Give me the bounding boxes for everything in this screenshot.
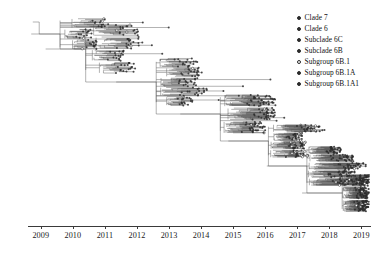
- tree-tip: [186, 97, 188, 99]
- tree-tip: [261, 99, 263, 101]
- tree-tip: [318, 126, 320, 128]
- tree-tip: [285, 156, 287, 158]
- tree-tip: [342, 154, 344, 156]
- tree-tip: [347, 183, 349, 185]
- tree-tip: [137, 38, 139, 40]
- legend-item[interactable]: Subclade 6B: [297, 46, 389, 56]
- tree-tip: [254, 114, 256, 116]
- tree-tip: [195, 84, 197, 86]
- legend-item[interactable]: Clade 6: [297, 24, 389, 34]
- tree-tip: [314, 125, 316, 127]
- tree-tip: [245, 122, 247, 124]
- tree-tip: [356, 194, 358, 196]
- axis-tick: [105, 226, 106, 229]
- tree-tip: [194, 79, 196, 81]
- legend-item[interactable]: Subclade 6C: [297, 35, 389, 45]
- tree-tip: [86, 34, 88, 36]
- tree-tip: [339, 157, 341, 159]
- tree-tip: [339, 164, 341, 166]
- tree-tip: [133, 71, 135, 73]
- tree-tip: [80, 33, 82, 35]
- tree-tip: [133, 63, 135, 65]
- tree-tip: [272, 112, 274, 114]
- tree-tip: [359, 209, 361, 211]
- tree-tip: [315, 130, 317, 132]
- tree-tip: [218, 99, 220, 101]
- tree-tip: [334, 176, 336, 178]
- tree-tip: [319, 130, 321, 132]
- tree-tip: [297, 155, 299, 157]
- legend-item-label: Subclade 6B: [305, 47, 343, 55]
- tree-tip: [298, 136, 300, 138]
- tree-tip: [303, 142, 305, 144]
- tree-tip: [187, 85, 189, 87]
- tree-tip: [177, 58, 179, 60]
- tree-tip: [291, 139, 293, 141]
- tree-tip: [126, 47, 128, 49]
- tree-tip: [134, 33, 136, 35]
- tree-tip: [348, 169, 350, 171]
- tree-tip: [198, 90, 200, 92]
- tree-tip: [343, 156, 345, 158]
- tree-tip: [82, 30, 84, 32]
- time-axis: 2009201020112012201320142015201620172018…: [0, 222, 391, 255]
- tree-tip: [324, 129, 326, 131]
- tree-tip: [109, 51, 111, 53]
- tree-tip: [94, 22, 96, 24]
- tree-tip: [116, 47, 118, 49]
- tree-tip: [197, 75, 199, 77]
- axis-tick: [73, 226, 74, 229]
- tree-tip: [352, 184, 354, 186]
- tree-tip: [203, 91, 205, 93]
- tree-tip: [365, 177, 367, 179]
- tree-tip: [101, 26, 103, 28]
- tree-tip: [276, 120, 278, 122]
- tree-tip: [359, 194, 361, 196]
- tree-tip: [365, 190, 367, 192]
- tree-tip: [357, 193, 359, 195]
- tree-tip: [259, 111, 261, 113]
- tree-tip: [333, 153, 335, 155]
- tree-tip: [288, 145, 290, 147]
- tree-tip: [196, 92, 198, 94]
- tree-tip: [115, 72, 117, 74]
- tree-tip: [304, 150, 306, 152]
- tree-tip: [301, 149, 303, 151]
- axis-tick: [297, 226, 298, 229]
- legend-item[interactable]: Clade 7: [297, 13, 389, 23]
- tree-tip: [178, 82, 180, 84]
- tree-tip: [368, 176, 370, 178]
- tree-tip: [273, 109, 275, 111]
- tree-tip: [246, 103, 248, 105]
- tree-tip: [350, 160, 352, 162]
- tree-tip: [136, 29, 138, 31]
- tree-tip: [194, 69, 196, 71]
- tree-tip: [181, 91, 183, 93]
- tree-tip: [193, 83, 195, 85]
- tree-tip: [354, 208, 356, 210]
- tree-tip: [258, 116, 260, 118]
- tree-tip: [96, 41, 98, 43]
- tree-tip: [182, 105, 184, 107]
- tree-tip: [334, 148, 336, 150]
- legend-item[interactable]: Subgroup 6B.1A1: [297, 79, 389, 89]
- tree-tip: [197, 70, 199, 72]
- tree-tip: [271, 107, 273, 109]
- legend: Clade 7Clade 6Subclade 6CSubclade 6BSubg…: [297, 13, 389, 90]
- tree-tip: [126, 70, 128, 72]
- tree-tip: [296, 125, 298, 127]
- tree-tip: [194, 93, 196, 95]
- tree-tip: [362, 162, 364, 164]
- legend-item[interactable]: Subgroup 6B.1: [297, 57, 389, 67]
- tree-tip: [312, 128, 314, 130]
- tree-tip: [107, 23, 109, 25]
- tree-tip: [120, 28, 122, 30]
- legend-item[interactable]: Subgroup 6B.1A: [297, 68, 389, 78]
- tree-tip: [337, 182, 339, 184]
- tree-tip: [303, 153, 305, 155]
- tree-tip: [254, 123, 256, 125]
- tree-tip: [270, 115, 272, 117]
- tree-tip: [134, 67, 136, 69]
- tree-tip: [151, 44, 153, 46]
- tree-tip: [250, 124, 252, 126]
